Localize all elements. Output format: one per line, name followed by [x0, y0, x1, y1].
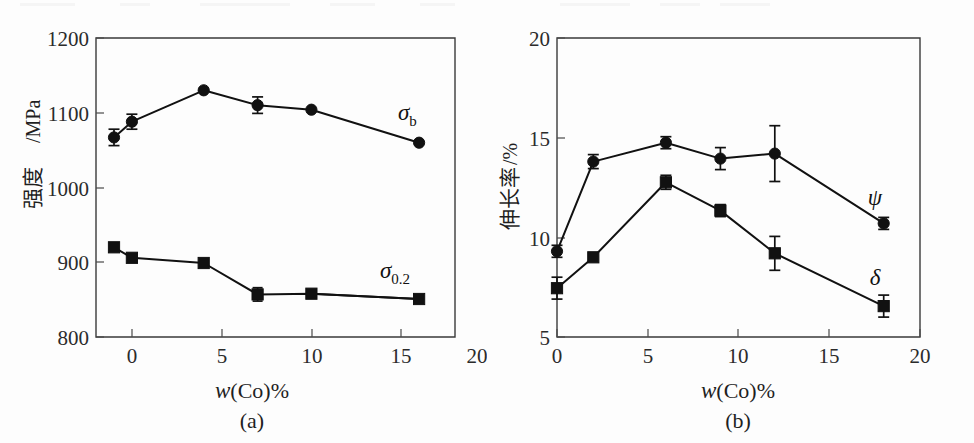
panel-a-xtick-10: 10 — [302, 344, 323, 368]
panel-b-svg: 20 15 10 5 0 5 10 15 20 伸长率 /% w(Co)% (b… — [487, 0, 974, 443]
panel-b-ytick-20: 20 — [529, 27, 550, 51]
panel-b-series-delta-markers — [551, 177, 889, 312]
scan-artifact-strip — [0, 0, 974, 14]
panel-a-series-sigma-b-errorbars — [109, 88, 420, 146]
panel-a-y-ticks — [96, 38, 104, 337]
panel-a-ytick-1200: 1200 — [47, 27, 89, 51]
panel-a-ylabel: 强度 /MPa — [21, 100, 45, 209]
panel-b-label-psi: ψ — [868, 185, 883, 210]
panel-b-label-delta: δ — [870, 265, 881, 290]
panel-a-label-sigma-b-subscript: b — [409, 113, 417, 129]
panel-a-ylabel-unit: /MPa — [22, 100, 44, 143]
panel-a-xtick-0: 0 — [127, 344, 138, 368]
panel-a-svg: 1200 1100 1000 900 800 0 5 10 15 20 强度 /… — [0, 0, 487, 443]
panel-b-series-psi-markers — [551, 137, 889, 257]
panel-b-ytick-15: 15 — [529, 127, 550, 151]
panel-a-series-sigma-02-line-fix — [311, 294, 419, 299]
panel-b-xlabel-symbol: w — [701, 378, 717, 403]
panel-a: 1200 1100 1000 900 800 0 5 10 15 20 强度 /… — [0, 0, 487, 443]
panel-a-xlabel-symbol: w — [215, 378, 231, 403]
panel-a-label-sigma-02: σ0.2 — [380, 258, 410, 287]
panel-a-ytick-1100: 1100 — [48, 102, 89, 126]
panel-a-ytick-1000: 1000 — [47, 177, 89, 201]
panel-a-axis-frame — [96, 38, 455, 337]
panel-b-axis-frame — [557, 38, 920, 337]
panel-b-xtick-20: 20 — [910, 344, 931, 368]
panel-a-label-sigma-02-subscript: 0.2 — [391, 271, 410, 287]
panel-b-ytick-5: 5 — [540, 326, 551, 350]
panel-a-series-sigma-02-line — [114, 247, 419, 299]
panel-a-ytick-900: 900 — [58, 251, 90, 275]
panel-a-label-sigma-b: σb — [398, 100, 417, 129]
panel-a-xtick-5: 5 — [217, 344, 228, 368]
panel-a-caption: (a) — [240, 408, 264, 433]
panel-a-xlabel-rest: (Co)% — [230, 378, 289, 403]
panel-b-series-delta-errorbars — [552, 175, 890, 317]
panel-b-xtick-10: 10 — [728, 344, 749, 368]
panel-b-xtick-0: 0 — [552, 344, 563, 368]
panel-b-ylabel-cjk: 伸长率 — [498, 167, 522, 230]
panel-a-series-sigma-b-line — [114, 90, 419, 142]
panel-a-x-ticks — [132, 329, 401, 337]
panel-b-series-psi-errorbars — [552, 126, 890, 258]
panel-b: 20 15 10 5 0 5 10 15 20 伸长率 /% w(Co)% (b… — [487, 0, 974, 443]
panel-a-xlabel: w(Co)% — [215, 378, 289, 403]
panel-b-caption: (b) — [725, 408, 751, 433]
panel-a-ytick-800: 800 — [58, 326, 90, 350]
panel-b-ylabel: 伸长率 /% — [498, 143, 522, 230]
panel-b-series-delta-line — [557, 182, 884, 306]
panel-a-series-sigma-b-markers — [108, 85, 424, 149]
panel-b-xlabel-rest: (Co)% — [716, 378, 775, 403]
figure-container: 1200 1100 1000 900 800 0 5 10 15 20 强度 /… — [0, 0, 974, 443]
panel-b-xlabel: w(Co)% — [701, 378, 775, 403]
panel-b-xtick-5: 5 — [643, 344, 654, 368]
panel-b-xtick-15: 15 — [819, 344, 840, 368]
panel-a-series-sigma-02-errorbars — [114, 245, 419, 301]
panel-b-x-ticks — [557, 329, 920, 337]
panel-b-ylabel-unit: /% — [499, 143, 521, 165]
panel-b-ytick-10: 10 — [529, 227, 550, 251]
panel-a-ylabel-cjk: 强度 — [21, 167, 45, 209]
panel-a-xtick-20: 20 — [467, 344, 488, 368]
panel-a-xtick-15: 15 — [391, 344, 412, 368]
